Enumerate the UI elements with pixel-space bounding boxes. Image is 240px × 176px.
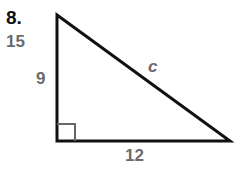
right-angle-marker [57,124,75,141]
right-triangle-diagram [0,0,240,176]
horizontal-leg-label: 12 [125,147,144,164]
triangle-shape [57,15,230,141]
vertical-leg-label: 9 [36,70,45,87]
hypotenuse-label: c [148,58,157,75]
